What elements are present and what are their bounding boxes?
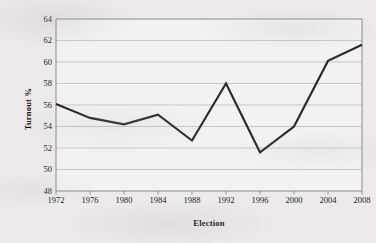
turnout-line-chart: 485052545658606264 197219761980198419881… xyxy=(0,0,376,243)
turnout-series-line xyxy=(56,45,362,153)
y-tick-label: 52 xyxy=(34,144,52,153)
y-tick-label: 50 xyxy=(34,165,52,174)
chart-canvas xyxy=(0,0,376,243)
x-tick-label: 2008 xyxy=(342,196,376,205)
y-tick-label: 54 xyxy=(34,122,52,131)
x-axis-title: Election xyxy=(56,218,362,228)
y-tick-label: 56 xyxy=(34,101,52,110)
y-tick-label: 62 xyxy=(34,36,52,45)
y-axis-title: Turnout % xyxy=(23,74,33,144)
x-tick-marks xyxy=(56,191,362,195)
y-tick-label: 48 xyxy=(34,187,52,196)
y-tick-label: 60 xyxy=(34,58,52,67)
y-tick-label: 58 xyxy=(34,79,52,88)
y-tick-label: 64 xyxy=(34,15,52,24)
gridlines xyxy=(56,19,362,191)
